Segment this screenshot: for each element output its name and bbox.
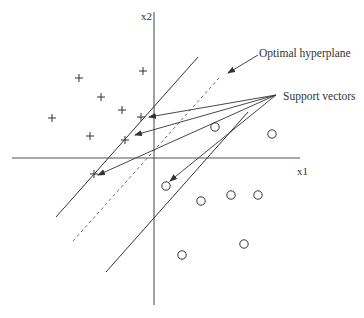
support-vector-arrow xyxy=(135,95,276,135)
plus-point xyxy=(118,106,126,114)
circle-point xyxy=(162,182,170,190)
support-vector-arrow xyxy=(98,95,276,175)
hyperplane-annotation-arrow xyxy=(228,55,258,73)
x1-axis-label: x1 xyxy=(297,165,308,177)
circle-point xyxy=(227,191,235,199)
plus-point xyxy=(137,113,145,121)
circle-point xyxy=(178,251,186,259)
circle-point xyxy=(268,130,276,138)
x2-axis-label: x2 xyxy=(141,10,152,22)
plus-point xyxy=(139,67,147,75)
plus-point xyxy=(97,93,105,101)
plus-point xyxy=(75,74,83,82)
optimal-hyperplane-label: Optimal hyperplane xyxy=(259,47,351,60)
circle-class-points xyxy=(162,123,276,259)
circle-point xyxy=(240,240,248,248)
support-vector-arrow xyxy=(149,95,276,117)
support-vectors-label: Support vectors xyxy=(283,90,356,103)
separating-lines xyxy=(56,57,248,272)
svm-diagram: x2 x1 xyxy=(0,0,364,318)
diagram-canvas: x2 x1 xyxy=(0,0,364,318)
plus-class-points xyxy=(48,67,147,178)
circle-point xyxy=(197,197,205,205)
plus-point xyxy=(86,132,94,140)
support-vector-arrow xyxy=(170,95,276,181)
plus-point xyxy=(48,114,56,122)
circle-point xyxy=(254,191,262,199)
